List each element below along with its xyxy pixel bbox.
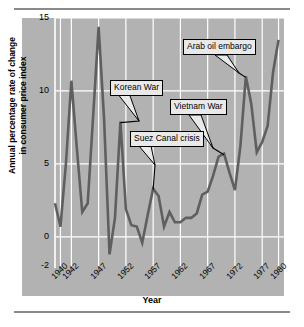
y-tick-0: 0 xyxy=(25,231,49,241)
annotation-suez-canal-crisis: Suez Canal crisis xyxy=(130,131,204,147)
x-axis-title: Year xyxy=(0,295,304,305)
y-axis-title: Annual percentage rate of change in cons… xyxy=(7,1,28,211)
annotation-leader-lines-group xyxy=(117,55,246,190)
y-tick-15: 15 xyxy=(25,12,49,22)
y-tick-5: 5 xyxy=(25,158,49,168)
y-axis-title-line2: in consumer price index xyxy=(17,57,27,155)
figure-container: Annual percentage rate of change in cons… xyxy=(0,0,304,327)
y-tick-neg2: -2 xyxy=(25,260,49,270)
annotation-arab-oil-embargo: Arab oil embargo xyxy=(183,39,256,55)
annotation-vietnam-war: Vietnam War xyxy=(170,99,227,115)
annotation-korean-war: Korean War xyxy=(110,80,163,96)
y-axis-title-line1: Annual percentage rate of change xyxy=(7,37,17,174)
y-tick-10: 10 xyxy=(25,85,49,95)
